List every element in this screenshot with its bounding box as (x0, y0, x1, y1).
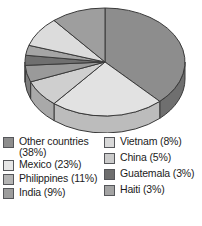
legend-item-india[interactable]: India (9%) (3, 187, 107, 199)
legend-swatch-philippines (3, 174, 14, 185)
chart-plot-area: Other countries (38%)Mexico (23%)Vietnam… (0, 0, 202, 133)
legend-label-guatemala: Guatemala (3%) (120, 168, 194, 179)
legend-swatch-vietnam (104, 137, 115, 148)
legend-swatch-india (3, 188, 14, 199)
pie-top-slices: Other countries (38%)Mexico (23%)Vietnam… (25, 8, 185, 116)
legend-label-other-countries: Other countries (38%) (19, 136, 89, 158)
legend-swatch-haiti (104, 185, 115, 196)
legend-item-china[interactable]: China (5%) (104, 152, 202, 164)
legend-swatch-guatemala (104, 169, 115, 180)
legend-item-philippines[interactable]: Philippines (11%) (3, 173, 107, 185)
legend-column-right: Vietnam (8%) China (5%) Guatemala (3%) H… (104, 136, 202, 200)
legend-label-india: India (9%) (19, 187, 65, 198)
legend-item-mexico[interactable]: Mexico (23%) (3, 159, 107, 171)
pie-chart-graphic: Other countries (38%)Mexico (23%)Vietnam… (0, 0, 202, 133)
legend-column-left: Other countries (38%) Mexico (23%) Phili… (3, 136, 107, 201)
legend-label-mexico: Mexico (23%) (19, 159, 81, 170)
legend-item-other-countries[interactable]: Other countries (38%) (3, 136, 107, 158)
legend-label-philippines: Philippines (11%) (19, 173, 97, 184)
pie-chart-figure: Other countries (38%)Mexico (23%)Vietnam… (0, 0, 202, 226)
chart-legend: Other countries (38%) Mexico (23%) Phili… (0, 136, 202, 226)
legend-label-vietnam: Vietnam (8%) (120, 136, 182, 147)
legend-item-guatemala[interactable]: Guatemala (3%) (104, 168, 202, 180)
legend-item-vietnam[interactable]: Vietnam (8%) (104, 136, 202, 148)
legend-label-haiti: Haiti (3%) (120, 184, 165, 195)
legend-item-haiti[interactable]: Haiti (3%) (104, 184, 202, 196)
legend-label-china: China (5%) (120, 152, 171, 163)
legend-swatch-other-countries (3, 137, 14, 148)
legend-swatch-china (104, 153, 115, 164)
legend-swatch-mexico (3, 160, 14, 171)
